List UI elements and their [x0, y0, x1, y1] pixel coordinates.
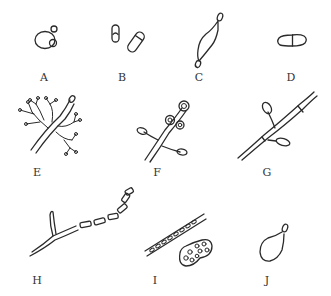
fungal-morphology-figure: A B C D E F G H I J	[0, 0, 331, 296]
panel-label-e: E	[33, 167, 41, 178]
panel-label-g: G	[263, 167, 272, 178]
panel-label-i: I	[153, 275, 157, 286]
panel-label-d: D	[287, 72, 296, 83]
panel-b-drawing	[112, 25, 146, 54]
panel-label-j: J	[265, 275, 269, 286]
panel-c-drawing	[194, 12, 223, 68]
panel-d-drawing	[278, 35, 307, 46]
panel-i-drawing	[145, 214, 212, 266]
panel-a-drawing	[35, 26, 57, 49]
panel-j-drawing	[260, 223, 289, 261]
panel-e-drawing	[19, 95, 82, 156]
panel-g-drawing	[238, 92, 317, 160]
panel-f-drawing	[136, 101, 189, 162]
panel-label-b: B	[118, 72, 126, 83]
panel-label-f: F	[153, 167, 161, 178]
panel-label-a: A	[40, 72, 48, 83]
panel-label-c: C	[195, 72, 203, 83]
panel-label-h: H	[32, 275, 42, 286]
panel-h-drawing	[30, 187, 134, 256]
drawings-canvas	[0, 0, 331, 296]
